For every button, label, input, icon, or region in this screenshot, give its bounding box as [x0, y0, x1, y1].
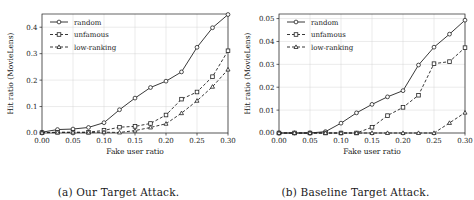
y-tick-label: 0.4 [26, 24, 38, 32]
data-point-square [448, 60, 452, 64]
data-point-square [133, 125, 137, 129]
x-tick-label: 0.30 [220, 137, 236, 145]
x-tick-label: 0.05 [65, 137, 81, 145]
x-tick-label: 0.30 [457, 137, 473, 145]
data-point-square [386, 114, 390, 118]
chart-b-svg: 0.000.050.100.150.200.250.300.000.010.02… [237, 0, 474, 168]
data-point-square [294, 33, 298, 37]
data-point-triangle [294, 45, 298, 49]
data-point-triangle [118, 130, 122, 134]
data-point-circle [118, 108, 122, 112]
data-point-circle [180, 70, 184, 74]
panel-a-caption: (a) Our Target Attack. [0, 186, 237, 198]
data-point-square [211, 75, 215, 79]
chart-a-svg: 0.000.050.100.150.200.250.300.00.10.20.3… [0, 0, 237, 168]
figure-two-panel: 0.000.050.100.150.200.250.300.00.10.20.3… [0, 0, 474, 200]
x-tick-label: 0.05 [302, 137, 318, 145]
y-tick-label: 0.3 [26, 50, 37, 58]
x-tick-label: 0.15 [364, 137, 380, 145]
data-point-circle [133, 96, 137, 100]
data-point-square [164, 113, 168, 117]
data-point-circle [355, 111, 359, 115]
data-point-square [226, 49, 230, 53]
data-point-circle [463, 18, 467, 22]
x-tick-label: 0.10 [333, 137, 349, 145]
data-point-circle [401, 89, 405, 93]
data-point-circle [226, 13, 230, 17]
y-axis-label: Hit ratio (MovieLens) [6, 32, 15, 114]
x-tick-label: 0.15 [127, 137, 143, 145]
data-point-square [417, 93, 421, 97]
x-tick-label: 0.00 [34, 137, 50, 145]
data-point-triangle [386, 131, 390, 135]
data-point-circle [149, 86, 153, 90]
data-point-circle [386, 95, 390, 99]
data-point-square [57, 33, 61, 37]
y-tick-label: 0.1 [26, 103, 37, 111]
y-tick-label: 0.05 [259, 15, 275, 23]
data-point-square [370, 125, 374, 129]
chart-b: 0.000.050.100.150.200.250.300.000.010.02… [237, 0, 474, 168]
data-point-circle [294, 20, 298, 24]
x-tick-label: 0.25 [426, 137, 442, 145]
y-tick-label: 0.00 [259, 129, 275, 137]
data-point-circle [339, 121, 343, 125]
legend-label-unfamous: unfamous [74, 31, 109, 39]
legend-label-random: random [311, 19, 339, 27]
data-point-circle [195, 45, 199, 49]
panel-b-caption: (b) Baseline Target Attack. [237, 186, 474, 198]
data-point-square [180, 97, 184, 101]
panel-b: 0.000.050.100.150.200.250.300.000.010.02… [237, 0, 474, 200]
x-tick-label: 0.10 [96, 137, 112, 145]
y-tick-label: 0.02 [259, 84, 275, 92]
legend-label-unfamous: unfamous [311, 31, 346, 39]
data-point-triangle [164, 122, 168, 126]
x-tick-label: 0.00 [271, 137, 287, 145]
data-point-circle [211, 26, 215, 30]
data-point-triangle [448, 121, 452, 125]
data-point-square [118, 125, 122, 129]
legend-label-random: random [74, 19, 102, 27]
x-axis-label: Fake user ratio [343, 147, 401, 156]
data-point-circle [370, 102, 374, 106]
data-point-triangle [463, 111, 467, 115]
data-point-triangle [417, 131, 421, 135]
data-point-square [463, 46, 467, 50]
data-point-circle [432, 45, 436, 49]
data-point-triangle [370, 131, 374, 135]
data-point-square [401, 106, 405, 110]
x-tick-label: 0.20 [395, 137, 411, 145]
y-tick-label: 0.03 [259, 61, 275, 69]
y-tick-label: 0.2 [26, 77, 37, 85]
data-point-square [195, 90, 199, 94]
y-axis-label: Hit ratio (MovieLens) [243, 32, 252, 114]
y-tick-label: 0.01 [259, 107, 275, 115]
data-point-circle [164, 79, 168, 83]
data-point-square [432, 62, 436, 66]
data-point-triangle [133, 129, 137, 133]
data-point-triangle [57, 45, 61, 49]
data-point-circle [448, 32, 452, 36]
panel-a: 0.000.050.100.150.200.250.300.00.10.20.3… [0, 0, 237, 200]
legend-label-low-ranking: low-ranking [74, 44, 117, 52]
x-axis-label: Fake user ratio [106, 147, 164, 156]
data-point-triangle [401, 131, 405, 135]
data-point-triangle [432, 131, 436, 135]
data-point-circle [417, 63, 421, 67]
data-point-circle [57, 20, 61, 24]
y-tick-label: 0.0 [26, 129, 37, 137]
data-point-triangle [149, 125, 153, 129]
y-tick-label: 0.04 [259, 38, 275, 46]
data-point-triangle [226, 67, 230, 71]
data-point-circle [102, 121, 106, 125]
data-point-circle [87, 126, 91, 130]
legend-label-low-ranking: low-ranking [311, 44, 354, 52]
x-tick-label: 0.25 [189, 137, 205, 145]
x-tick-label: 0.20 [158, 137, 174, 145]
chart-a: 0.000.050.100.150.200.250.300.00.10.20.3… [0, 0, 237, 168]
